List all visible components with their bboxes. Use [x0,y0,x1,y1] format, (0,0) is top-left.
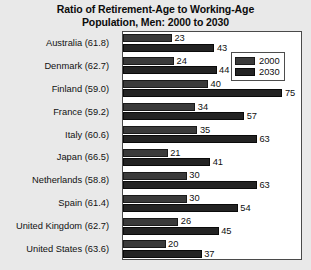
bar-value-label: 24 [175,56,188,66]
category-label: Finland (59.0) [0,84,109,95]
chart-row: Spain (61.4)3054 [123,192,301,215]
bar-2000 [123,172,187,180]
chart-title-line-2: Population, Men: 2000 to 2030 [0,16,311,29]
chart-row: Japan (66.5)2141 [123,147,301,170]
legend-label-2000: 2000 [259,56,280,66]
bar-value-label: 41 [211,157,224,167]
chart-row: Netherlands (58.8)3063 [123,169,301,192]
bar-2000 [123,80,208,88]
bar-value-label: 63 [258,134,271,144]
bar-2000 [123,103,195,111]
category-label: Italy (60.6) [0,130,109,141]
category-label: Netherlands (58.8) [0,175,109,186]
legend-item-2030: 2030 [235,66,280,77]
plot-area: Australia (61.8)2343Denmark (62.7)2444Fi… [122,31,302,260]
bar-value-label: 30 [188,170,201,180]
bar-2030 [123,158,210,166]
bar-2030 [123,112,244,120]
bar-value-label: 30 [188,193,201,203]
bar-2030 [123,44,214,52]
bar-2030 [123,181,257,189]
bar-2000 [123,57,174,65]
category-label: France (59.2) [0,107,109,118]
bar-value-label: 37 [203,249,216,259]
category-label: United Kingdom (62.7) [0,221,109,232]
chart-title: Ratio of Retirement-Age to Working-Age P… [0,3,311,28]
chart-title-line-1: Ratio of Retirement-Age to Working-Age [0,3,311,16]
bar-value-label: 23 [173,33,186,43]
category-label: United States (63.6) [0,244,109,255]
bar-2000 [123,34,172,42]
category-label: Spain (61.4) [0,198,109,209]
bar-2030 [123,227,219,235]
category-label: Japan (66.5) [0,152,109,163]
bar-value-label: 20 [167,239,180,249]
bar-2000 [123,126,197,134]
legend-swatch-2000-icon [235,57,255,65]
bar-2000 [123,149,168,157]
category-label: Australia (61.8) [0,38,109,49]
bar-2000 [123,195,187,203]
legend-item-2000: 2000 [235,55,280,66]
bar-value-label: 57 [245,111,258,121]
chart-legend: 2000 2030 [231,52,285,81]
bar-value-label: 44 [218,65,231,75]
bar-2030 [123,135,257,143]
chart-row: United Kingdom (62.7)2645 [123,215,301,238]
bar-2030 [123,204,238,212]
chart-row: Italy (60.6)3563 [123,124,301,147]
bar-2030 [123,250,202,258]
bar-2030 [123,89,282,97]
chart-row: Finland (59.0)4075 [123,78,301,101]
category-label: Denmark (62.7) [0,61,109,72]
legend-swatch-2030-icon [235,68,255,76]
bar-value-label: 43 [215,43,228,53]
chart-row: United States (63.6)2037 [123,238,301,261]
bar-value-label: 35 [198,125,211,135]
bar-value-label: 26 [179,216,192,226]
bar-value-label: 34 [196,102,209,112]
bar-value-label: 45 [220,226,233,236]
bar-value-label: 63 [258,180,271,190]
bar-value-label: 75 [283,88,296,98]
bar-value-label: 40 [209,79,222,89]
bar-2000 [123,240,166,248]
chart-row: France (59.2)3457 [123,101,301,124]
bar-2000 [123,218,178,226]
bar-value-label: 21 [169,148,182,158]
bar-2030 [123,66,217,74]
chart-canvas: Ratio of Retirement-Age to Working-Age P… [0,0,311,270]
bar-value-label: 54 [239,203,252,213]
legend-label-2030: 2030 [259,67,280,77]
